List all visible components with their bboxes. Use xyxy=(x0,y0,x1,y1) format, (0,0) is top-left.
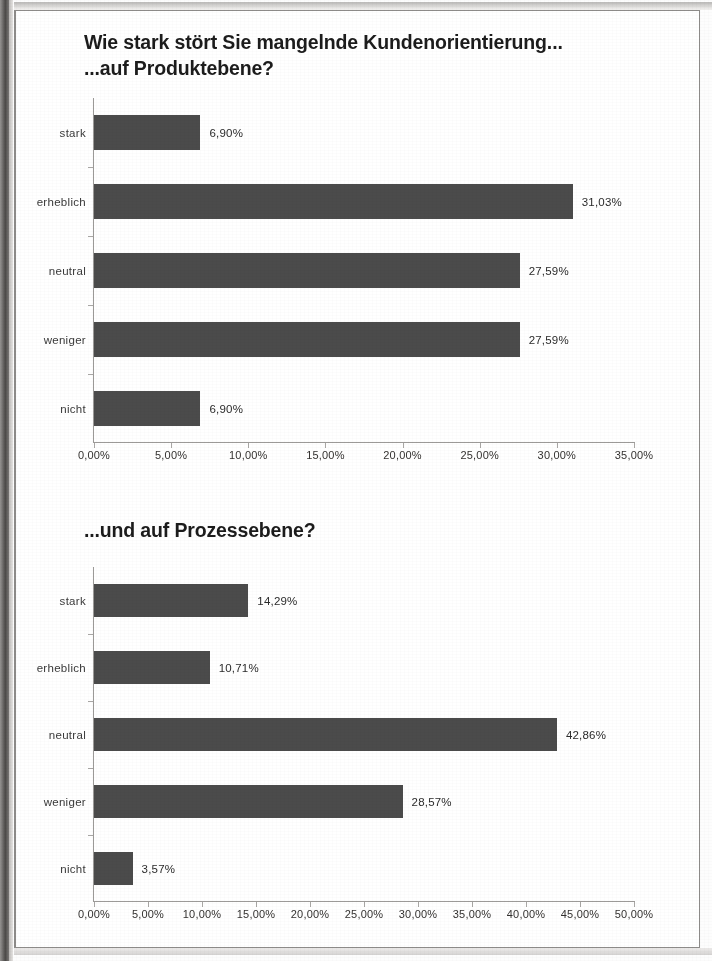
scan-top-edge xyxy=(14,2,712,10)
value-axis-label: 0,00% xyxy=(78,449,110,461)
chart-2-row: neutral42,86% xyxy=(76,718,686,752)
bar-erheblich xyxy=(94,651,210,685)
category-axis-tick xyxy=(88,305,93,306)
value-axis-tick xyxy=(171,443,172,448)
category-axis-tick xyxy=(88,701,93,702)
value-axis-label: 30,00% xyxy=(399,908,438,920)
category-label: stark xyxy=(0,595,86,607)
category-axis-tick xyxy=(88,634,93,635)
value-axis-tick xyxy=(256,902,257,907)
value-axis-label: 45,00% xyxy=(561,908,600,920)
value-axis-label: 20,00% xyxy=(291,908,330,920)
chart-2-row: stark14,29% xyxy=(76,584,686,618)
value-axis-label: 5,00% xyxy=(155,449,187,461)
category-axis-tick xyxy=(88,236,93,237)
category-axis-tick xyxy=(88,374,93,375)
value-axis-tick xyxy=(310,902,311,907)
bar-value-label: 10,71% xyxy=(219,662,259,674)
chart-2-title: ...und auf Prozessebene? xyxy=(84,517,316,543)
value-axis-label: 10,00% xyxy=(183,908,222,920)
bar-neutral xyxy=(94,718,557,752)
chart-2-bars: stark14,29%erheblich10,71%neutral42,86%w… xyxy=(76,567,686,902)
bar-value-label: 14,29% xyxy=(257,595,297,607)
category-label: neutral xyxy=(0,729,86,741)
value-axis-label: 20,00% xyxy=(383,449,422,461)
value-axis-label: 10,00% xyxy=(229,449,268,461)
bar-stark xyxy=(94,115,200,150)
value-axis-tick xyxy=(325,443,326,448)
chart-1-row: neutral27,59% xyxy=(76,253,686,288)
category-axis-tick xyxy=(88,167,93,168)
bar-nicht xyxy=(94,852,133,886)
value-axis-tick xyxy=(557,443,558,448)
chart-1-row: erheblich31,03% xyxy=(76,184,686,219)
bar-value-label: 31,03% xyxy=(582,196,622,208)
value-axis-tick xyxy=(94,443,95,448)
chart-2-plot-area: stark14,29%erheblich10,71%neutral42,86%w… xyxy=(76,567,686,902)
bar-value-label: 6,90% xyxy=(209,403,243,415)
value-axis-tick xyxy=(202,902,203,907)
category-label: stark xyxy=(0,127,86,139)
bar-value-label: 6,90% xyxy=(209,127,243,139)
scan-bottom-edge xyxy=(14,948,712,955)
value-axis-label: 25,00% xyxy=(460,449,499,461)
value-axis-label: 50,00% xyxy=(615,908,654,920)
bar-value-label: 3,57% xyxy=(142,863,176,875)
chart-1-row: nicht6,90% xyxy=(76,391,686,426)
chart-1-plot-area: stark6,90%erheblich31,03%neutral27,59%we… xyxy=(76,98,686,443)
value-axis-tick xyxy=(634,902,635,907)
chart-2-row: erheblich10,71% xyxy=(76,651,686,685)
chart-2-row: weniger28,57% xyxy=(76,785,686,819)
category-axis-tick xyxy=(88,768,93,769)
value-axis-tick xyxy=(634,443,635,448)
bar-nicht xyxy=(94,391,200,426)
bar-erheblich xyxy=(94,184,573,219)
category-label: erheblich xyxy=(0,196,86,208)
value-axis-label: 25,00% xyxy=(345,908,384,920)
bar-value-label: 42,86% xyxy=(566,729,606,741)
value-axis-label: 15,00% xyxy=(306,449,345,461)
value-axis-tick xyxy=(148,902,149,907)
chart-1-row: weniger27,59% xyxy=(76,322,686,357)
value-axis-tick xyxy=(403,443,404,448)
value-axis-label: 5,00% xyxy=(132,908,164,920)
value-axis-tick xyxy=(480,443,481,448)
chart-prozessebene: ...und auf Prozessebene? stark14,29%erhe… xyxy=(16,500,700,948)
value-axis-tick xyxy=(94,902,95,907)
category-label: nicht xyxy=(0,863,86,875)
value-axis-label: 40,00% xyxy=(507,908,546,920)
bar-value-label: 28,57% xyxy=(412,796,452,808)
bar-neutral xyxy=(94,253,520,288)
value-axis-tick xyxy=(472,902,473,907)
value-axis-label: 0,00% xyxy=(78,908,110,920)
category-label: weniger xyxy=(0,334,86,346)
bar-weniger xyxy=(94,785,403,819)
chart-1-title: Wie stark stört Sie mangelnde Kundenorie… xyxy=(84,29,563,81)
value-axis-tick xyxy=(418,902,419,907)
bar-weniger xyxy=(94,322,520,357)
chart-2-row: nicht3,57% xyxy=(76,852,686,886)
chart-1-bars: stark6,90%erheblich31,03%neutral27,59%we… xyxy=(76,98,686,443)
scan-binding-shadow xyxy=(0,0,9,961)
category-label: erheblich xyxy=(0,662,86,674)
value-axis-tick xyxy=(248,443,249,448)
category-axis-tick xyxy=(88,835,93,836)
chart-1-axis-labels: 0,00%5,00%10,00%15,00%20,00%25,00%30,00%… xyxy=(76,449,686,465)
scan-binding-edge xyxy=(9,0,13,961)
chart-produktebene: Wie stark stört Sie mangelnde Kundenorie… xyxy=(16,12,700,472)
category-label: weniger xyxy=(0,796,86,808)
bar-value-label: 27,59% xyxy=(529,334,569,346)
value-axis-label: 30,00% xyxy=(538,449,577,461)
bar-value-label: 27,59% xyxy=(529,265,569,277)
value-axis-tick xyxy=(526,902,527,907)
value-axis-tick xyxy=(580,902,581,907)
value-axis-label: 35,00% xyxy=(615,449,654,461)
value-axis-label: 15,00% xyxy=(237,908,276,920)
chart-1-row: stark6,90% xyxy=(76,115,686,150)
scanned-page: Wie stark stört Sie mangelnde Kundenorie… xyxy=(0,0,712,961)
bar-stark xyxy=(94,584,248,618)
chart-2-axis-labels: 0,00%5,00%10,00%15,00%20,00%25,00%30,00%… xyxy=(76,908,686,924)
category-label: nicht xyxy=(0,403,86,415)
value-axis-label: 35,00% xyxy=(453,908,492,920)
category-label: neutral xyxy=(0,265,86,277)
